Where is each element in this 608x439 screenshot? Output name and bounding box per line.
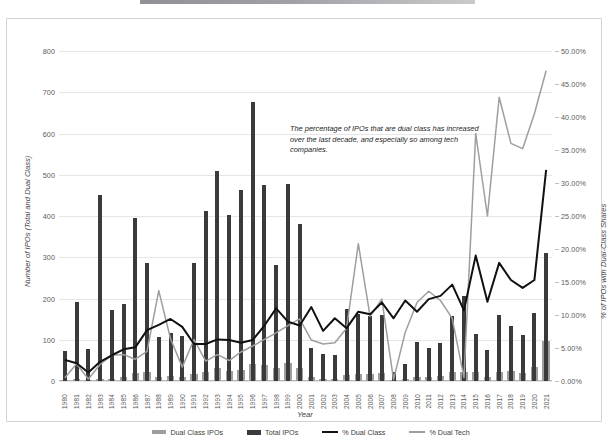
x-axis-tick-label: 1989 <box>167 394 174 409</box>
x-axis-tick-label: 1985 <box>120 394 127 409</box>
x-axis-tick-label: 1996 <box>249 394 256 409</box>
x-axis-tick-label: 2011 <box>425 394 432 409</box>
chart-frame: 0100200300400500600700800 0.00%5.00%10.0… <box>6 18 602 422</box>
y-axis-left-tick-label: 0 <box>9 377 55 386</box>
x-axis-tick-label: 2017 <box>496 394 503 409</box>
x-axis-tick-label: 1986 <box>132 394 139 409</box>
legend-swatch-line-black-icon <box>322 431 338 433</box>
y-axis-right-tick-label: 30.00% <box>561 179 607 188</box>
x-axis-tick-label: 1980 <box>61 394 68 409</box>
x-axis-tick-label: 2012 <box>437 394 444 409</box>
y-axis-right-tick-label: 50.00% <box>561 47 607 56</box>
x-axis-tick-label: 2010 <box>414 394 421 409</box>
y-axis-right-tick-mark <box>555 84 559 85</box>
chart-annotation-text: The percentage of IPOs that are dual cla… <box>290 124 486 156</box>
x-axis-tick-label: 1988 <box>155 394 162 409</box>
x-axis-tick-label: 2003 <box>331 394 338 409</box>
x-axis-tick-label: 1990 <box>179 394 186 409</box>
y-axis-right-tick-mark <box>555 381 559 382</box>
x-axis-tick-label: 2000 <box>296 394 303 409</box>
x-axis-tick-label: 1992 <box>202 394 209 409</box>
legend-label: Total IPOs <box>265 428 298 437</box>
x-axis-tick-label: 2019 <box>519 394 526 409</box>
y-axis-right-tick-label: 35.00% <box>561 146 607 155</box>
y-axis-right-tick-mark <box>555 150 559 151</box>
x-axis-tick-label: 1984 <box>108 394 115 409</box>
y-axis-left-tick-label: 100 <box>9 335 55 344</box>
y-axis-right-tick-mark <box>555 282 559 283</box>
x-axis-tick-label: 1995 <box>237 394 244 409</box>
x-axis-tick-label: 1983 <box>97 394 104 409</box>
x-axis-tick-label: 1999 <box>284 394 291 409</box>
y-axis-right-tick-mark <box>555 249 559 250</box>
legend-swatch-bar-gray-icon <box>152 430 166 434</box>
y-axis-left-tick-label: 800 <box>9 47 55 56</box>
y-axis-right-tick-mark <box>555 117 559 118</box>
chart-legend: Dual Class IPOs Total IPOs % Dual Class … <box>13 423 608 439</box>
y-axis-left-tick-label: 700 <box>9 88 55 97</box>
y-axis-right-tick-mark <box>555 315 559 316</box>
x-axis-tick-label: 1993 <box>214 394 221 409</box>
y-axis-right: 0.00%5.00%10.00%15.00%20.00%25.00%30.00%… <box>555 51 605 381</box>
x-axis-tick-label: 2002 <box>320 394 327 409</box>
gridline <box>59 381 552 382</box>
x-axis-tick-label: 1987 <box>144 394 151 409</box>
x-axis-tick-label: 1994 <box>226 394 233 409</box>
x-axis-tick-label: 2004 <box>343 394 350 409</box>
y-axis-left-tick-label: 200 <box>9 294 55 303</box>
y-axis-right-tick-label: 0.00% <box>561 377 607 386</box>
x-axis-tick-label: 1982 <box>85 394 92 409</box>
x-axis-tick-label: 2020 <box>531 394 538 409</box>
x-axis-tick-label: 2005 <box>355 394 362 409</box>
legend-label: % Dual Class <box>342 428 385 437</box>
legend-label: % Dual Tech <box>429 428 469 437</box>
x-axis-tick-label: 2006 <box>367 394 374 409</box>
x-axis-tick-label: 1981 <box>73 394 80 409</box>
y-axis-right-tick-label: 5.00% <box>561 344 607 353</box>
legend-swatch-line-gray-icon <box>409 431 425 433</box>
y-axis-left-title: Number of IPOs (Total and Dual Class) <box>23 156 32 287</box>
x-axis-tick-label: 2021 <box>543 394 550 409</box>
x-axis-tick-label: 1991 <box>190 394 197 409</box>
x-axis-tick-label: 2008 <box>390 394 397 409</box>
legend-item-total-ipos[interactable]: Total IPOs <box>247 428 298 437</box>
legend-item-dual-class-ipos[interactable]: Dual Class IPOs <box>152 428 223 437</box>
y-axis-right-tick-mark <box>555 216 559 217</box>
x-axis-tick-label: 2007 <box>378 394 385 409</box>
line-pct-dual-class <box>65 170 546 373</box>
y-axis-left-tick-label: 500 <box>9 170 55 179</box>
x-axis-tick-label: 1997 <box>261 394 268 409</box>
y-axis-left-tick-label: 300 <box>9 253 55 262</box>
y-axis-left-tick-label: 400 <box>9 212 55 221</box>
line-pct-dual-tech <box>65 71 546 380</box>
x-axis-tick-label: 2015 <box>472 394 479 409</box>
legend-label: Dual Class IPOs <box>170 428 223 437</box>
x-axis-tick-label: 2018 <box>507 394 514 409</box>
y-axis-right-tick-mark <box>555 183 559 184</box>
y-axis-left-tick-label: 600 <box>9 129 55 138</box>
line-series-layer <box>59 51 552 381</box>
x-axis-tick-label: 2014 <box>460 394 467 409</box>
x-axis-tick-label: 2001 <box>308 394 315 409</box>
legend-swatch-bar-dark-icon <box>247 430 261 435</box>
y-axis-right-tick-label: 40.00% <box>561 113 607 122</box>
x-axis-tick-labels: 1980198119821983198419851986198719881989… <box>59 383 552 409</box>
legend-item-pct-dual-tech[interactable]: % Dual Tech <box>409 428 469 437</box>
y-axis-right-tick-mark <box>555 348 559 349</box>
x-axis-tick-label: 1998 <box>273 394 280 409</box>
x-axis-title: Year <box>7 410 603 419</box>
x-axis-tick-label: 2016 <box>484 394 491 409</box>
plot-area <box>59 51 552 381</box>
y-axis-right-tick-label: 45.00% <box>561 80 607 89</box>
x-axis-tick-label: 2009 <box>402 394 409 409</box>
y-axis-right-title: % of IPOs with Dual-Class Shares <box>599 204 608 319</box>
y-axis-right-tick-mark <box>555 51 559 52</box>
legend-item-pct-dual-class[interactable]: % Dual Class <box>322 428 385 437</box>
top-banner-strip <box>140 0 475 4</box>
x-axis-tick-label: 2013 <box>449 394 456 409</box>
